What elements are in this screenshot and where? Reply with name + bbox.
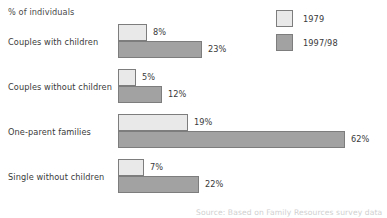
bar-value-label: 19% [194, 117, 213, 127]
bar [118, 114, 188, 131]
bar-row: 5% [118, 69, 196, 86]
bar [118, 159, 144, 176]
category-label: Single without children [8, 172, 104, 182]
bar [118, 69, 136, 86]
bar [118, 41, 202, 58]
axis-caption: % of individuals [8, 7, 74, 17]
bar-value-label: 22% [205, 179, 224, 189]
bar-row: 62% [118, 131, 387, 148]
category-label: Couples with children [8, 37, 98, 47]
bar-value-label: 62% [351, 134, 370, 144]
bar-group: Single without children7%22% [0, 157, 373, 199]
bar-group: Couples with children8%23% [0, 22, 373, 64]
bar-row: 23% [118, 41, 262, 58]
bar [118, 131, 345, 148]
category-label: One-parent families [8, 127, 91, 137]
bar-value-label: 7% [150, 162, 163, 172]
bar [118, 24, 147, 41]
bar-value-label: 5% [142, 72, 155, 82]
bar-row: 22% [118, 176, 259, 193]
bar-value-label: 12% [168, 89, 187, 99]
category-label: Couples without children [8, 82, 112, 92]
bar [118, 176, 199, 193]
bar [118, 86, 162, 103]
bar-value-label: 8% [153, 27, 166, 37]
bar-group: Couples without children5%12% [0, 67, 373, 109]
bar-row: 12% [118, 86, 222, 103]
bar-row: 19% [118, 114, 248, 131]
bar-row: 7% [118, 159, 204, 176]
source-note: Source: Based on Family Resources survey… [196, 208, 382, 217]
bar-group: One-parent families19%62% [0, 112, 373, 154]
bar-value-label: 23% [208, 44, 227, 54]
bar-row: 8% [118, 24, 207, 41]
plot-area: Couples with children8%23%Couples withou… [0, 22, 373, 202]
